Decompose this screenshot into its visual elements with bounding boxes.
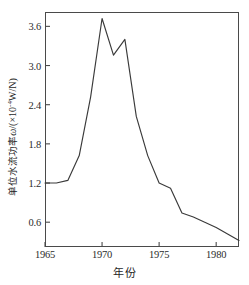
y-axis-title-cn: 单位水流功率: [7, 136, 18, 196]
y-axis-tick-marks: [45, 26, 50, 222]
x-tick-label: 1980: [206, 249, 226, 260]
y-axis-unit-close: W/N): [7, 78, 18, 101]
x-axis-title: 年份: [0, 264, 249, 280]
x-tick-label: 1975: [149, 249, 169, 260]
x-tick-label: 1970: [92, 249, 112, 260]
y-axis-unit-exponent: -4: [6, 101, 14, 107]
y-tick-label: 1.2: [28, 178, 41, 189]
y-axis-unit-open: /(×10: [7, 107, 18, 129]
y-tick-label: 2.4: [28, 99, 41, 110]
chart-figure: 0.61.21.82.43.03.6 1965197019751980 单位水流…: [0, 0, 249, 285]
y-tick-label: 3.0: [28, 60, 41, 71]
plot-canvas: [45, 12, 239, 247]
y-axis-title-variable: ω: [7, 129, 18, 136]
y-axis-title: 单位水流功率ω/(×10-4W/N): [5, 49, 19, 225]
y-tick-label: 3.6: [28, 21, 41, 32]
x-tick-label: 1965: [35, 249, 55, 260]
y-tick-label: 0.6: [28, 217, 41, 228]
y-tick-label: 1.8: [28, 138, 41, 149]
x-axis-tick-marks: [45, 242, 216, 247]
data-line-unit-stream-power: [45, 19, 239, 241]
